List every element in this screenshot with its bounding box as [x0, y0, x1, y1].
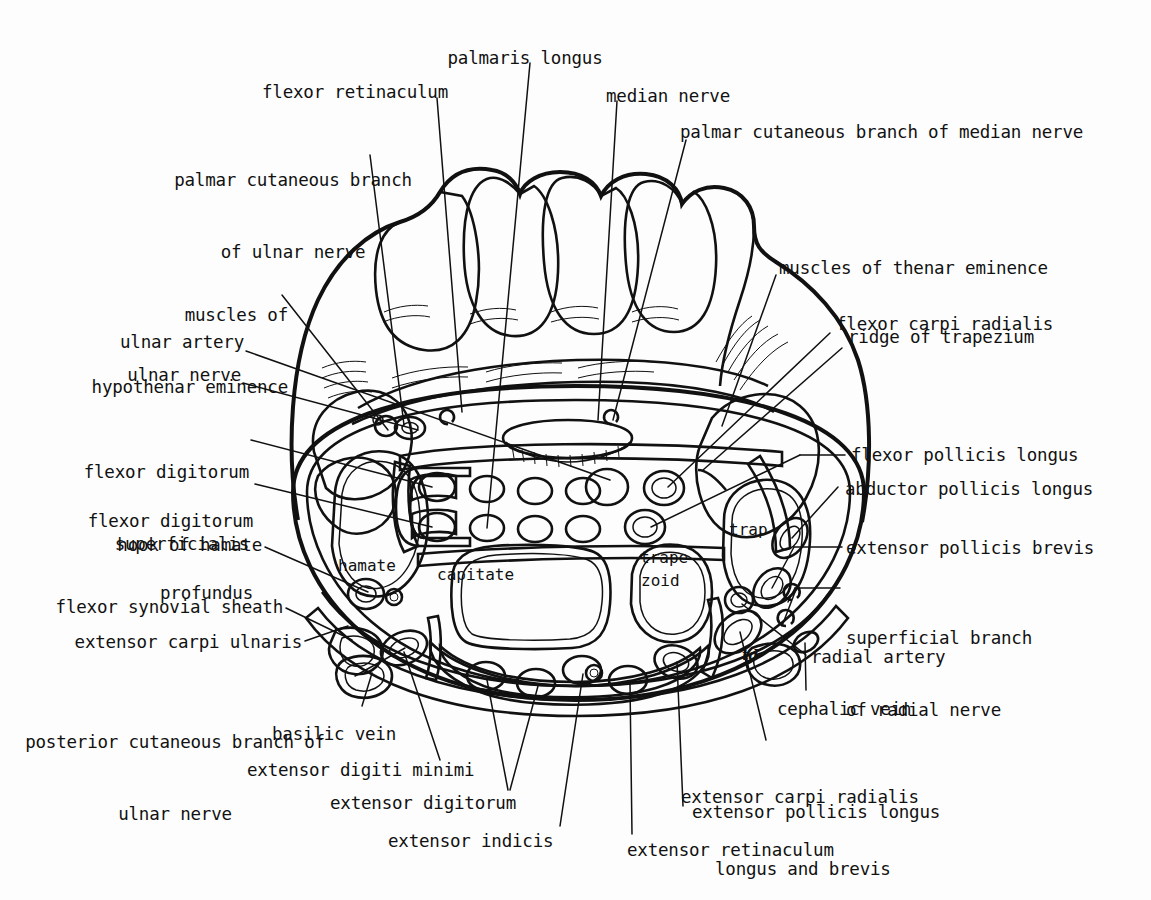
- extensor-retinaculum-band: [306, 606, 848, 716]
- label-extensor-digitorum: extensor digitorum: [330, 791, 516, 815]
- label-ulnar-artery: ulnar artery: [0, 330, 244, 354]
- label-line: flexor digitorum: [0, 509, 253, 533]
- label-basilic-vein: basilic vein: [272, 722, 396, 746]
- label-palmar-cutaneous-branch-of-median-nerve: palmar cutaneous branch of median nerve: [680, 120, 1083, 144]
- bone-label-hamate: hamate: [338, 556, 396, 575]
- label-muscles-of-thenar-eminence: muscles of thenar eminence: [779, 256, 1048, 280]
- label-hook-of-hamate: hook of hamate: [0, 533, 262, 557]
- bone-label-capitate: capitate: [437, 565, 514, 584]
- label-extensor-pollicis-brevis: extensor pollicis brevis: [846, 536, 1094, 560]
- ridge-of-trapezium-shape: [698, 470, 726, 490]
- label-flexor-pollicis-longus: flexor pollicis longus: [851, 443, 1078, 467]
- bone-label-trapezium: trap: [729, 520, 768, 539]
- label-median-nerve: median nerve: [606, 84, 730, 108]
- label-abductor-pollicis-longus: abductor pollicis longus: [845, 477, 1093, 501]
- label-flexor-synovial-sheath: flexor synovial sheath: [0, 595, 283, 619]
- anatomical-figure: td hamate capitate trape zoid trap: [0, 0, 1151, 900]
- ulnar-neurovascular-bundle: [373, 415, 425, 439]
- label-flexor-retinaculum: flexor retinaculum: [155, 80, 555, 104]
- wrist-cross-section: td hamate capitate trape zoid trap: [293, 386, 864, 716]
- label-cephalic-vein: cephalic vein: [777, 697, 911, 721]
- label-extensor-digiti-minimi: extensor digiti minimi: [247, 758, 474, 782]
- label-ulnar-nerve: ulnar nerve: [0, 363, 241, 387]
- bone-label-trapezoid-line1: trape: [640, 548, 688, 567]
- label-extensor-pollicis-longus: extensor pollicis longus: [692, 800, 940, 824]
- label-palmaris-longus: palmaris longus: [375, 46, 675, 70]
- label-line: muscles of: [0, 303, 288, 327]
- label-extensor-indicis: extensor indicis: [388, 829, 553, 853]
- hook-of-hamate-shape: [348, 579, 402, 609]
- label-extensor-carpi-ulnaris: extensor carpi ulnaris: [0, 630, 302, 654]
- label-line: palmar cutaneous branch: [148, 168, 438, 192]
- label-ridge-of-trapezium: ridge of trapezium: [848, 325, 1034, 349]
- label-radial-artery: radial artery: [811, 645, 945, 669]
- bone-label-trapezoid-line2: zoid: [641, 571, 680, 590]
- label-line: ulnar nerve: [0, 802, 350, 826]
- radial-flexor-tendons: [625, 471, 684, 544]
- label-extensor-retinaculum: extensor retinaculum: [627, 838, 834, 862]
